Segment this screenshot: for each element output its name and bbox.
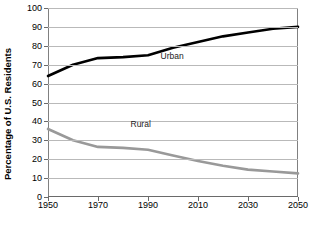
gridline-y bbox=[48, 159, 298, 160]
y-tick-mark bbox=[44, 121, 48, 122]
gridline-y bbox=[48, 46, 298, 47]
y-tick-label: 50 bbox=[16, 98, 42, 108]
gridline-y bbox=[48, 140, 298, 141]
y-tick-label: 10 bbox=[16, 173, 42, 183]
y-tick-mark bbox=[44, 178, 48, 179]
series-label-rural: Rural bbox=[131, 119, 151, 129]
y-tick-label: 70 bbox=[16, 60, 42, 70]
x-tick-label: 2050 bbox=[288, 200, 308, 210]
x-tick-label: 2010 bbox=[188, 200, 208, 210]
y-tick-label: 20 bbox=[16, 154, 42, 164]
y-tick-mark bbox=[44, 65, 48, 66]
y-tick-mark bbox=[44, 159, 48, 160]
y-tick-mark bbox=[44, 84, 48, 85]
y-tick-label: 100 bbox=[16, 3, 42, 13]
y-tick-label: 30 bbox=[16, 135, 42, 145]
y-tick-mark bbox=[44, 46, 48, 47]
x-tick-label: 1970 bbox=[88, 200, 108, 210]
series-label-urban: Urban bbox=[161, 51, 184, 61]
y-tick-mark bbox=[44, 140, 48, 141]
gridline-y bbox=[48, 65, 298, 66]
y-tick-mark bbox=[44, 103, 48, 104]
line-rural bbox=[48, 129, 298, 173]
gridline-y bbox=[48, 27, 298, 28]
y-tick-label: 90 bbox=[16, 22, 42, 32]
gridline-y bbox=[48, 103, 298, 104]
x-tick-label: 1950 bbox=[38, 200, 58, 210]
y-tick-label: 40 bbox=[16, 116, 42, 126]
gridline-y bbox=[48, 8, 298, 9]
y-tick-mark bbox=[44, 27, 48, 28]
chart-container: Percentage of U.S. Residents 01020304050… bbox=[0, 0, 321, 228]
y-axis-title: Percentage of U.S. Residents bbox=[0, 0, 14, 228]
gridline-y bbox=[48, 121, 298, 122]
gridline-y bbox=[48, 178, 298, 179]
y-tick-label: 80 bbox=[16, 41, 42, 51]
y-tick-label: 60 bbox=[16, 79, 42, 89]
y-tick-mark bbox=[44, 8, 48, 9]
x-tick-label: 1990 bbox=[138, 200, 158, 210]
x-tick-label: 2030 bbox=[238, 200, 258, 210]
gridline-y bbox=[48, 84, 298, 85]
plot-area bbox=[48, 8, 298, 197]
